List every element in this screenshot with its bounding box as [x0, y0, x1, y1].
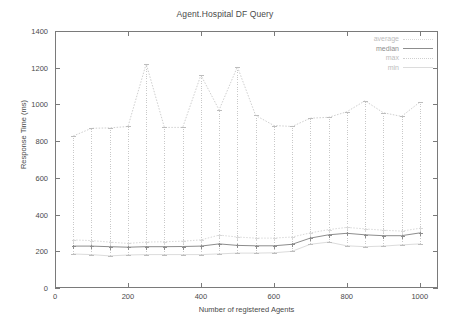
chart-legend: average median max min — [337, 31, 436, 75]
data-point-average — [273, 237, 277, 241]
y-tick-label: 800 — [8, 137, 48, 146]
legend-item-min: min — [337, 63, 433, 73]
data-point-average — [182, 240, 186, 244]
data-point-average — [236, 236, 240, 240]
series-layer — [71, 64, 423, 257]
data-point-median — [419, 232, 423, 236]
data-point-median — [127, 246, 131, 250]
chart-figure: Agent.Hospital DF Query Response Time (m… — [0, 0, 450, 332]
data-point-median — [255, 245, 259, 249]
data-point-median — [145, 246, 149, 250]
legend-label-min: min — [388, 64, 399, 71]
y-tick-label: 200 — [8, 247, 48, 256]
data-point-average — [382, 229, 386, 233]
x-tick-label: 1000 — [400, 292, 440, 301]
x-tick-label: 600 — [254, 292, 294, 301]
data-point-average — [364, 228, 368, 232]
data-point-median — [291, 243, 295, 247]
data-point-average — [291, 236, 295, 240]
data-point-median — [72, 245, 76, 249]
legend-item-median: median — [337, 44, 433, 54]
legend-label-average: average — [374, 35, 399, 42]
data-point-average — [163, 241, 167, 245]
data-point-median — [218, 243, 222, 247]
data-point-average — [90, 240, 94, 244]
data-point-average — [127, 242, 131, 246]
y-tick-label: 600 — [8, 173, 48, 182]
series-min — [73, 242, 420, 256]
y-tick-label: 1400 — [8, 27, 48, 36]
data-point-median — [382, 235, 386, 239]
y-tick-label: 1200 — [8, 63, 48, 72]
data-point-average — [401, 230, 405, 234]
legend-swatch-min — [403, 64, 433, 70]
data-point-average — [72, 239, 76, 243]
series-median — [73, 233, 420, 247]
data-point-median — [328, 234, 332, 238]
data-point-average — [109, 241, 113, 245]
data-point-average — [218, 234, 222, 238]
x-tick-label: 800 — [327, 292, 367, 301]
x-tick-label: 400 — [181, 292, 221, 301]
data-point-median — [163, 246, 167, 250]
legend-item-average: average — [337, 34, 433, 44]
data-point-median — [364, 234, 368, 238]
data-point-average — [309, 232, 313, 236]
y-tick-label: 400 — [8, 210, 48, 219]
legend-label-median: median — [376, 45, 399, 52]
legend-label-max: max — [386, 54, 399, 61]
data-point-average — [145, 241, 149, 245]
legend-swatch-max — [403, 55, 433, 61]
x-tick-label: 200 — [108, 292, 148, 301]
data-point-median — [109, 246, 113, 250]
data-point-average — [328, 229, 332, 233]
data-point-median — [309, 237, 313, 241]
data-point-median — [200, 245, 204, 249]
data-point-average — [255, 237, 259, 241]
data-point-median — [346, 232, 350, 236]
legend-swatch-average — [403, 36, 433, 42]
data-point-median — [90, 245, 94, 249]
data-point-median — [273, 245, 277, 249]
x-tick-label: 0 — [35, 292, 75, 301]
legend-swatch-median — [403, 45, 433, 51]
data-point-average — [346, 226, 350, 230]
data-point-median — [236, 244, 240, 248]
data-point-average — [419, 227, 423, 231]
y-tick-label: 1000 — [8, 100, 48, 109]
legend-item-max: max — [337, 53, 433, 63]
